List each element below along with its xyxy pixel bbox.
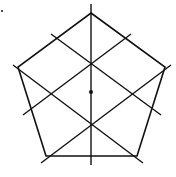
center-point bbox=[89, 90, 93, 94]
corner-dot bbox=[1, 10, 3, 12]
pentagon-diagram bbox=[0, 0, 176, 177]
symmetry-line-upper-left-edge bbox=[51, 34, 161, 115]
symmetry-lines bbox=[13, 4, 171, 165]
symmetry-line-right-vertex bbox=[41, 65, 171, 163]
symmetry-line-upper-right-edge bbox=[23, 34, 131, 115]
